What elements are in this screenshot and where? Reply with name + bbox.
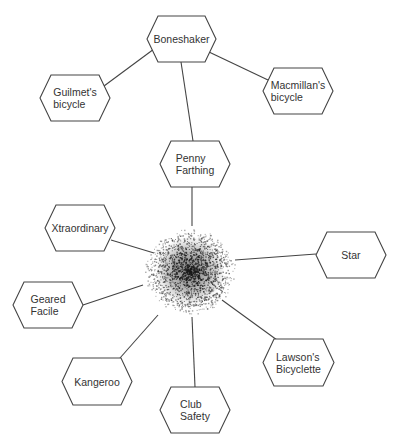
node-label-line: Guilmet's <box>53 86 96 98</box>
node-label-line: Boneshaker <box>153 33 209 45</box>
node-label-line: bicycle <box>271 91 326 103</box>
node-label-kangeroo: Kangeroo <box>62 358 132 405</box>
node-label-line: Xtraordinary <box>51 222 108 234</box>
node-label-line: Facile <box>30 305 65 317</box>
edge-xtraordinary-hub <box>111 240 154 253</box>
node-label-star: Star <box>316 232 386 278</box>
node-label-line: Macmillan's <box>271 79 326 91</box>
node-label-guilmets-bicycle: Guilmet'sbicycle <box>40 75 110 121</box>
node-label-penny-farthing: PennyFarthing <box>160 141 230 187</box>
node-label-line: bicycle <box>53 98 96 110</box>
node-label-lawsons-bicyclette: Lawson'sBicyclette <box>263 339 334 386</box>
node-label-xtraordinary: Xtraordinary <box>45 205 115 251</box>
node-label-line: Lawson's <box>276 351 321 363</box>
edge-boneshaker-macmillans-bicycle <box>209 52 268 80</box>
edge-club-safety-hub <box>192 317 195 387</box>
node-label-line: Safety <box>180 410 210 422</box>
edge-lawsons-bicyclette-hub <box>222 300 277 340</box>
node-label-club-safety: ClubSafety <box>160 387 230 433</box>
edge-kangeroo-hub <box>120 315 158 358</box>
central-dot-cloud <box>145 229 236 314</box>
edge-star-hub <box>235 254 316 260</box>
edge-geared-facile-hub <box>83 285 143 305</box>
node-label-line: Farthing <box>176 164 215 176</box>
node-label-line: Bicyclette <box>276 363 321 375</box>
node-label-geared-facile: GearedFacile <box>13 282 83 328</box>
node-label-line: Geared <box>30 293 65 305</box>
node-label-line: Penny <box>176 152 215 164</box>
node-label-line: Star <box>341 249 360 261</box>
node-label-macmillans-bicycle: Macmillan'sbicycle <box>263 68 333 114</box>
node-label-line: Club <box>180 398 210 410</box>
node-label-line: Kangeroo <box>74 376 120 388</box>
node-label-boneshaker: Boneshaker <box>147 16 216 62</box>
edge-boneshaker-penny-farthing <box>181 62 193 141</box>
